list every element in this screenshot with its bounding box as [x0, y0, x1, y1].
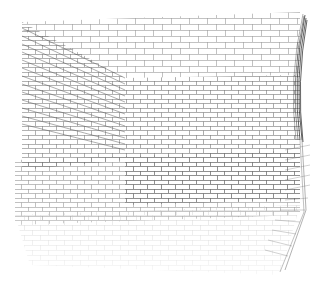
wireframe-brick-room: Wireframe 3D render of a brick-patterned… — [0, 0, 325, 294]
brick-render — [0, 0, 325, 294]
floor — [0, 200, 325, 294]
